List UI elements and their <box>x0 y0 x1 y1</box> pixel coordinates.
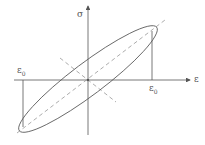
major-axis-dashed <box>17 20 165 133</box>
origin-point <box>87 79 89 81</box>
right-strain-amplitude-label: ε0 <box>149 84 158 95</box>
stress-axis-label: σ <box>77 10 83 19</box>
left-strain-amplitude-label: ε0 <box>17 66 26 77</box>
strain-axis-label: ε <box>194 75 199 84</box>
hysteresis-diagram <box>0 0 205 145</box>
